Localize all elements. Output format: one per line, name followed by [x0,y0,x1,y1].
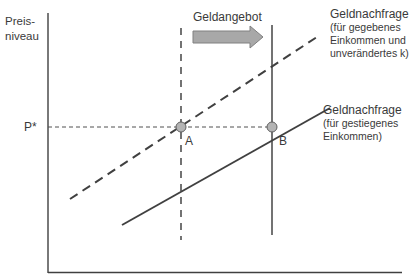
y-axis-label-line1: Preis- [5,14,39,29]
money-demand-new-line [122,108,330,225]
money-demand-old-line3: unverändertes k) [330,47,409,60]
point-b-marker [267,122,277,132]
y-axis-label-line2: niveau [5,29,39,44]
money-demand-new-line2: Einkommen) [323,130,402,143]
money-demand-new-label: Geldnachfrage (für gestiegenes Einkommen… [323,103,402,143]
shift-arrow-icon [193,26,263,48]
money-demand-old-line2: Einkommen und [330,34,409,47]
money-demand-old-line1: (für gegebenes [330,21,409,34]
money-demand-old-label: Geldnachfrage (für gegebenes Einkommen u… [330,7,409,60]
point-a-marker [176,122,186,132]
money-demand-old-line [70,35,320,199]
p-star-label: P* [24,120,37,134]
point-a-label: A [185,134,193,148]
money-demand-new-title: Geldnachfrage [323,103,402,117]
money-supply-label: Geldangebot [193,10,262,24]
point-b-label: B [279,134,287,148]
y-axis-label: Preis- niveau [5,14,39,44]
money-demand-old-title: Geldnachfrage [330,7,409,21]
money-demand-new-line1: (für gestiegenes [323,117,402,130]
